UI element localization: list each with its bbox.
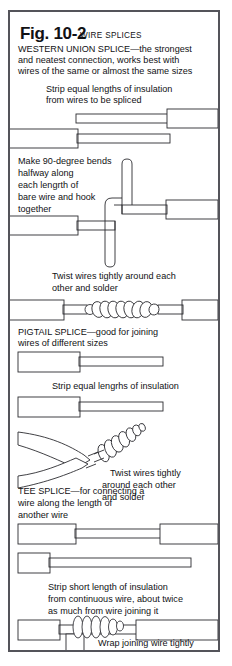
wu-step3-caption-line-1: Twist wires tightly around each [52,271,176,281]
tee-step1-diagram [18,524,218,573]
figure-card: Fig. 10-2 WIRE SPLICES WESTERN UNION SPL… [8,10,220,652]
wu-step2-caption-line-2: halfway along [18,168,74,178]
tee-heading-line-2: wire along the length of [17,498,113,508]
pigtail-wires-bottom [18,397,163,417]
wire-splices-illustration: Fig. 10-2 WIRE SPLICES WESTERN UNION SPL… [10,12,218,650]
twisted-coil-western-union [85,300,160,319]
pigtail-step2-caption-line-1: Twist wires tightly [110,468,181,478]
wu-step1-caption-line-2: from wires to be spliced [46,95,142,105]
twisted-coil-pigtail [94,422,152,463]
western-union-heading-line-2: and neatest connection, works best with [18,55,179,65]
wrapped-coil-tee [73,616,124,638]
pigtail-heading-line-2: wires of different sizes [17,338,108,348]
wu-step3-diagram [10,300,218,320]
tee-step1-caption-line-2: from continuous wire, about twice [48,594,183,604]
figure-title: WIRE SPLICES [80,31,142,40]
pigtail-step1-caption: Strip equal lengrhs of insulation [52,381,179,391]
tee-step2-caption-line-1: Wrap joining wire tightly [98,638,194,648]
wu-step2-caption-line-3: each lengrth of [18,180,79,190]
tee-heading-line-1: TEE SPLICE—for connecting a [18,486,145,496]
western-union-heading-line-3: wires of the same or almost the same siz… [17,66,193,76]
western-union-heading-line-1: WESTERN UNION SPLICE—the strongest [18,44,192,54]
wu-step1-diagram [10,109,218,148]
wu-step2-caption-line-5: together [18,204,51,214]
tee-heading-line-3: another wire [18,510,68,520]
wu-step3-caption-line-2: other and solder [52,283,118,293]
wu-step2-caption-line-1: Make 90-degree bends [18,156,112,166]
figure-inner: Fig. 10-2 WIRE SPLICES WESTERN UNION SPL… [10,12,218,650]
tee-step1-caption-line-3: as much from wire joining it [48,606,159,616]
pliers-twisting-diagram [18,422,152,488]
pigtail-heading-line-1: PIGTAIL SPLICE—good for joining [18,327,158,337]
wu-step2-caption-line-4: bare wire and hook [18,192,96,202]
tee-step1-caption-line-1: Strip short length of insulation [48,582,168,592]
pigtail-wires-top [18,352,163,372]
figure-number: Fig. 10-2 [20,24,86,43]
wu-step1-caption-line-1: Strip equal lengths of insulation [46,84,172,94]
